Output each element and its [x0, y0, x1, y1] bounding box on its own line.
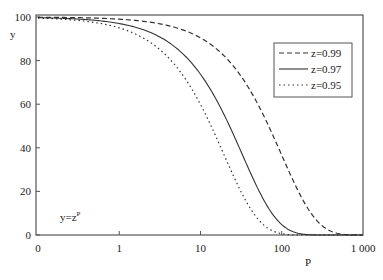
y-tick-label: 60	[20, 98, 32, 110]
x-tick-label: 10	[195, 242, 207, 254]
y-tick-label: 40	[20, 142, 32, 154]
x-tick-label: 1	[117, 242, 123, 254]
y-tick-label: 0	[26, 229, 32, 241]
y-tick-label: 80	[20, 55, 32, 67]
y-axis-label: y	[10, 28, 16, 40]
y-tick-label: 20	[20, 185, 32, 197]
legend-label: z=0.99	[311, 47, 342, 59]
chart: 020406080100 01101001 000 y P y=zP z=0.9…	[0, 0, 383, 280]
x-tick-label: 100	[274, 242, 291, 254]
x-axis-label: P	[305, 256, 311, 268]
formula-annotation: y=zP	[60, 210, 81, 223]
x-tick-label: 1 000	[351, 242, 376, 254]
x-tick-label: 0	[35, 242, 41, 254]
legend: z=0.99z=0.97z=0.95	[274, 43, 352, 97]
legend-label: z=0.97	[311, 63, 342, 75]
legend-label: z=0.95	[311, 79, 342, 91]
y-tick-label: 100	[15, 11, 32, 23]
